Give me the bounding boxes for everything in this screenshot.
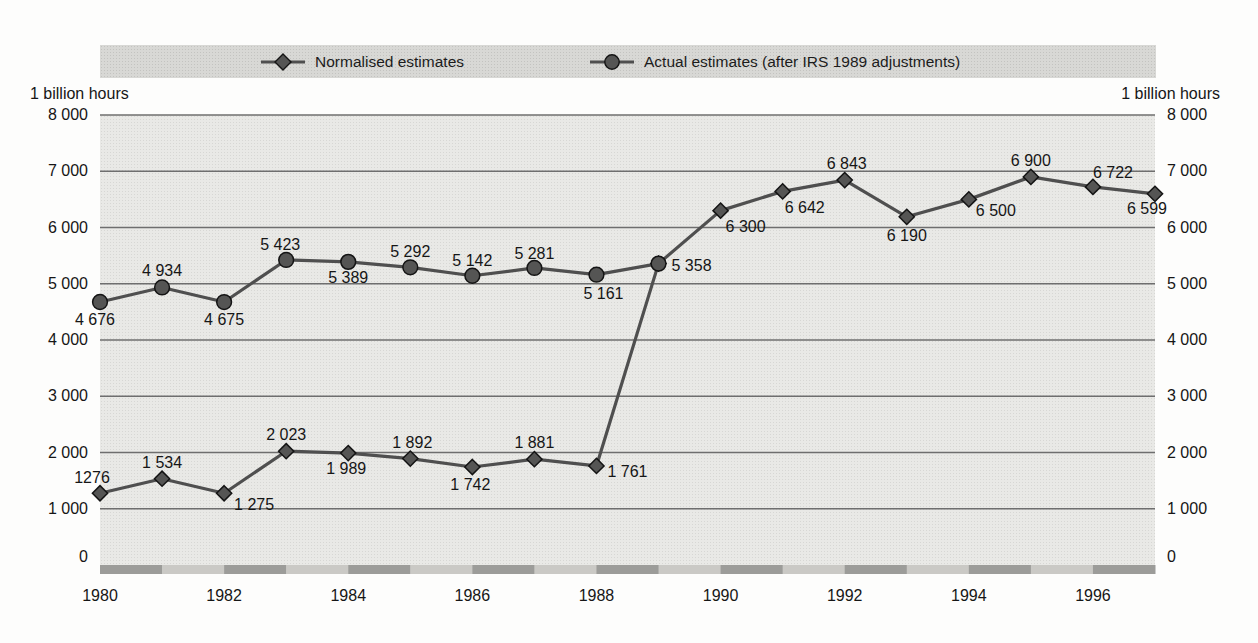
x-axis-band-segment [348,565,411,574]
data-point-diamond [154,471,169,486]
data-point-label: 5 142 [452,252,492,269]
x-tick-label: 1992 [827,587,863,604]
data-point-diamond [465,459,480,474]
data-point-label: 5 423 [260,236,300,253]
data-point-label: 6 599 [1127,200,1167,217]
data-point-label: 6 300 [726,218,766,235]
x-axis-band-segment [410,565,473,574]
x-tick-label: 1984 [330,587,366,604]
y-tick-label-right: 5 000 [1167,275,1207,292]
data-point-label: 4 934 [142,262,182,279]
data-point-label: 1 761 [607,463,647,480]
x-axis-band-segment [721,565,784,574]
y-tick-label-left: 1 000 [48,500,88,517]
data-point-circle [589,267,604,282]
data-point-circle [155,280,170,295]
x-axis-band-segment [659,565,722,574]
x-axis-band-segment [534,565,597,574]
data-point-diamond [589,458,604,473]
x-axis-band-segment [845,565,908,574]
x-tick-label: 1996 [1075,587,1111,604]
data-point-label: 6 843 [827,155,867,172]
x-axis-band-segment [596,565,659,574]
data-point-circle [403,260,418,275]
series-line-circle [100,260,659,302]
data-point-diamond [775,184,790,199]
x-tick-label: 1988 [579,587,615,604]
y-tick-label-right: 6 000 [1167,219,1207,236]
data-point-label: 6 500 [976,202,1016,219]
data-point-label: 6 722 [1093,164,1133,181]
data-point-label: 1 275 [234,496,274,513]
figure: Normalised estimates Actual estimates (a… [0,0,1258,643]
y-tick-label-right: 3 000 [1167,387,1207,404]
y-tick-label-left: 4 000 [48,331,88,348]
data-point-circle [527,261,542,276]
y-tick-label-right: 2 000 [1167,444,1207,461]
x-axis-band-segment [472,565,535,574]
y-tick-label-left: 2 000 [48,444,88,461]
x-axis-band-segment [162,565,225,574]
data-point-diamond [341,446,356,461]
data-point-circle [341,254,356,269]
data-point-circle [93,295,108,310]
data-point-circle [651,256,666,271]
data-point-label: 4 676 [75,311,115,328]
y-tick-label-right: 1 000 [1167,500,1207,517]
data-point-label: 5 161 [583,285,623,302]
data-point-label: 4 675 [204,311,244,328]
data-point-label: 5 292 [390,243,430,260]
x-tick-label: 1986 [455,587,491,604]
y-tick-label-left: 7 000 [48,162,88,179]
data-point-label: 6 642 [785,199,825,216]
x-axis-band-segment [1093,565,1156,574]
data-point-label: 1 892 [392,434,432,451]
y-tick-label-right: 8 000 [1167,106,1207,123]
y-tick-label-left: 0 [79,548,88,565]
data-point-label: 1 989 [326,460,366,477]
data-point-label: 5 358 [672,257,712,274]
x-axis-band-segment [286,565,349,574]
x-axis-band-segment [1031,565,1094,574]
data-point-label: 6 190 [887,227,927,244]
data-point-diamond [1085,179,1100,194]
y-tick-label-left: 6 000 [48,219,88,236]
data-point-circle [465,268,480,283]
x-axis-band-segment [100,565,163,574]
data-point-label: 1 742 [450,476,490,493]
data-point-label: 1276 [74,469,110,486]
x-axis-band-segment [783,565,846,574]
data-point-label: 5 389 [328,269,368,286]
x-tick-label: 1982 [206,587,242,604]
x-axis-band-segment [224,565,287,574]
x-axis-band-segment [907,565,970,574]
data-point-diamond [92,486,107,501]
y-tick-label-right: 7 000 [1167,162,1207,179]
data-point-label: 5 281 [514,245,554,262]
data-point-circle [279,253,294,268]
data-point-diamond [527,452,542,467]
data-point-diamond [837,172,852,187]
data-point-label: 1 534 [142,454,182,471]
y-tick-label-right: 0 [1167,548,1176,565]
data-point-label: 6 900 [1011,152,1051,169]
data-point-diamond [403,451,418,466]
data-point-label: 1 881 [514,434,554,451]
y-tick-label-left: 3 000 [48,387,88,404]
y-tick-label-left: 8 000 [48,106,88,123]
series-line-diamond [100,177,1155,493]
x-axis-band-segment [969,565,1032,574]
data-point-label: 2 023 [266,426,306,443]
chart-canvas: 8 0008 0007 0007 0006 0006 0005 0005 000… [0,0,1258,643]
x-tick-label: 1980 [82,587,118,604]
y-tick-label-left: 5 000 [48,275,88,292]
x-tick-label: 1994 [951,587,987,604]
data-point-diamond [899,209,914,224]
x-tick-label: 1990 [703,587,739,604]
data-point-diamond [961,192,976,207]
y-tick-label-right: 4 000 [1167,331,1207,348]
data-point-circle [217,295,232,310]
